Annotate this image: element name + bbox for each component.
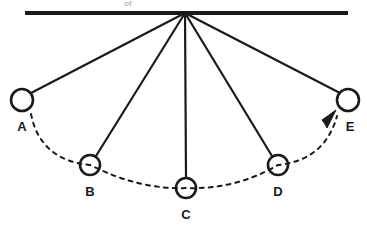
label-A: A bbox=[17, 119, 27, 134]
label-E: E bbox=[346, 119, 355, 134]
top-edge-artifact-text: of bbox=[124, 0, 132, 8]
string-to-C bbox=[185, 13, 186, 178]
pendulum-bob-C bbox=[176, 178, 196, 198]
pendulum-bob-A bbox=[11, 89, 33, 111]
string-to-A bbox=[31, 13, 185, 93]
label-B: B bbox=[85, 184, 94, 199]
pendulum-bob-E bbox=[337, 89, 359, 111]
label-D: D bbox=[273, 184, 282, 199]
pendulum-bob-B bbox=[80, 155, 100, 175]
pendulum-diagram-canvas: of A B C D E bbox=[0, 0, 367, 226]
pendulum-bob-D bbox=[268, 155, 288, 175]
pendulum-strings-group bbox=[31, 13, 340, 178]
pendulum-diagram: of A B C D E bbox=[0, 0, 367, 226]
label-C: C bbox=[181, 207, 191, 222]
string-to-B bbox=[96, 13, 185, 156]
